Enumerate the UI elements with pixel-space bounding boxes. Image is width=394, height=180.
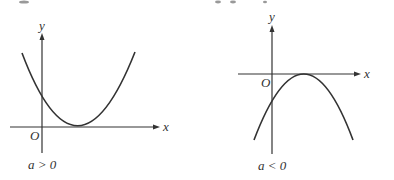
caption-a-negative: a < 0	[258, 158, 287, 173]
x-axis-arrow-icon	[153, 125, 160, 130]
cropped-text-fragment	[19, 0, 29, 3]
origin-label: O	[30, 128, 40, 143]
y-axis-arrow-icon	[270, 25, 275, 32]
cropped-text-fragment	[215, 1, 221, 4]
right-figure: y x O a < 0	[238, 9, 370, 173]
x-axis-label: x	[162, 119, 169, 134]
cropped-text-fragment	[230, 1, 236, 4]
y-axis-label: y	[267, 9, 275, 24]
upward-parabola	[22, 52, 135, 126]
x-axis-label: x	[363, 66, 370, 81]
x-axis-arrow-icon	[354, 72, 361, 77]
cropped-text-fragment	[263, 1, 267, 3]
y-axis-label: y	[37, 18, 45, 33]
left-figure: y x O a > 0	[10, 18, 169, 172]
y-axis-arrow-icon	[40, 33, 45, 40]
origin-label: O	[261, 75, 271, 90]
parabola-figures: y x O a > 0 y x O a < 0	[0, 0, 394, 180]
caption-a-positive: a > 0	[28, 157, 57, 172]
